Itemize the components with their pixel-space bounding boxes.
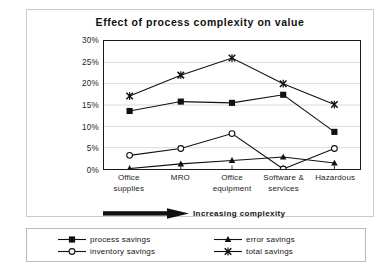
x-axis-category-label: Hazardous [309,173,361,205]
data-point-open-circle [229,131,235,137]
chart-container: Effect of process complexity on value Co… [26,9,374,217]
y-axis-tick-label: 15% [67,101,99,110]
x-axis-category-label-line: Office [103,173,155,184]
x-axis-category-label: Officeequipment [206,173,258,205]
legend-label: total savings [246,247,293,256]
x-axis-category-label-line: supplies [103,184,155,195]
data-point-open-circle [69,248,75,254]
legend-marker-open-circle [57,246,87,257]
chart-title: Effect of process complexity on value [27,16,373,28]
y-axis-tick-labels: 30%25%20%15%10%5%0% [65,40,99,170]
legend-entry[interactable]: process savings [57,233,201,245]
data-point-open-circle [178,146,184,152]
legend-label: error savings [246,235,295,244]
complexity-annotation-label: Increasing complexity [193,209,285,218]
x-axis-category-label-line: equipment [206,184,258,195]
y-axis-tick-label: 10% [67,122,99,131]
chart-legend: process savingserror savingsinventory sa… [26,228,366,262]
legend-marker-cross-x [213,246,243,257]
data-point-filled-triangle [280,154,287,160]
data-point-open-circle [280,166,286,169]
data-point-cross-x [229,54,236,62]
legend-marker-filled-square [57,234,87,245]
legend-label: process savings [90,235,150,244]
y-axis-tick-label: 30% [67,36,99,45]
legend-marker-filled-triangle [213,234,243,245]
complexity-annotation: Increasing complexity [103,206,371,220]
x-axis-category-label-line: Software & [258,173,310,184]
data-point-filled-square [178,99,184,105]
right-arrow-icon [103,208,189,219]
data-point-cross-x [178,71,185,79]
data-point-filled-square [127,108,133,114]
legend-entries: process savingserror savingsinventory sa… [57,233,357,257]
x-axis-category-label: Officesupplies [103,173,155,205]
data-point-filled-square [331,129,337,135]
legend-entry[interactable]: total savings [213,245,357,257]
legend-label: inventory savings [90,247,155,256]
x-axis-category-label-line: MRO [155,173,207,184]
x-axis-category-label: MRO [155,173,207,205]
y-axis-tick-label: 25% [67,57,99,66]
legend-entry[interactable]: error savings [213,233,357,245]
x-axis-category-labels: OfficesuppliesMROOfficeequipmentSoftware… [103,173,361,205]
data-point-cross-x [126,92,133,100]
series-line-inventory-savings [130,134,335,169]
series-line-total-savings [130,58,335,105]
data-point-filled-square [280,92,286,98]
data-point-filled-square [229,100,235,106]
data-point-open-circle [332,146,338,152]
plot-svg [104,41,360,169]
data-point-filled-square [69,236,75,242]
x-axis-category-label-line: Office [206,173,258,184]
data-point-open-circle [127,152,133,158]
data-point-cross-x [331,101,338,109]
plot-area [103,40,361,170]
y-axis-tick-label: 0% [67,166,99,175]
x-axis-category-label: Software &services [258,173,310,205]
legend-entry[interactable]: inventory savings [57,245,201,257]
x-axis-category-label-line: Hazardous [309,173,361,184]
x-axis-category-label-line: services [258,184,310,195]
y-axis-tick-label: 20% [67,79,99,88]
y-axis-tick-label: 5% [67,144,99,153]
